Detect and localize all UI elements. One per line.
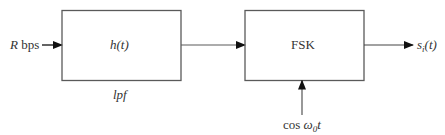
carrier-omega: ω [304,117,313,132]
output-arg: (t) [425,37,437,52]
input-rate-unit: bps [18,37,39,52]
output-label: si(t) [417,38,437,54]
input-label: R bps [10,38,39,51]
carrier-prefix: cos [283,117,304,132]
fsk-block-label: FSK [291,38,315,51]
lpf-caption: lpf [113,88,127,101]
lpf-block-label: h(t) [110,38,129,51]
input-rate-var: R [10,37,18,52]
carrier-time: t [317,117,321,132]
diagram-canvas [0,0,445,135]
carrier-label: cos ω0t [283,118,321,134]
